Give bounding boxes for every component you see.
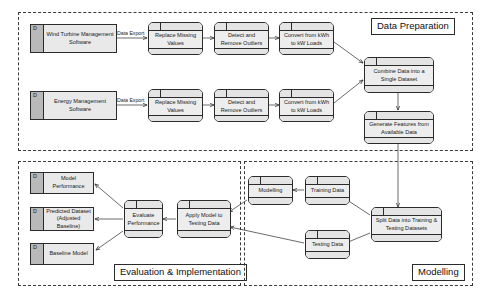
process-convert-kwh-kw-2[interactable]: Convert from kWh to kW Loads [279, 89, 334, 122]
process-label: Testing Data [306, 239, 349, 251]
store-marker-icon: D [31, 244, 44, 264]
store-marker-icon: D [31, 173, 44, 193]
process-label: Detect and Remove Outliers [215, 98, 268, 115]
store-wind-turbine-management-software[interactable]: D Wind Turbine Management Software [30, 24, 117, 53]
process-label: Evaluate Performance [125, 209, 162, 230]
process-header-band [280, 90, 333, 98]
process-label: Training Data [306, 185, 349, 197]
process-label: Modelling [249, 185, 292, 197]
process-label: Detect and Remove Outliers [215, 31, 268, 48]
process-label: Replace Missing Values [149, 98, 202, 115]
process-footer-band [306, 197, 349, 204]
process-header-band [249, 177, 292, 185]
process-header-band [280, 23, 333, 31]
process-header-band [178, 201, 230, 209]
process-header-band [365, 58, 433, 66]
process-footer-band [280, 115, 333, 122]
store-marker-icon: D [31, 208, 44, 230]
process-generate-features[interactable]: Generate Features from Available Data [364, 111, 434, 144]
process-header-band [306, 177, 349, 185]
group-label-data-preparation: Data Preparation [371, 18, 455, 35]
process-combine-data-single-dataset[interactable]: Combine Data into a Single Dataset [364, 57, 434, 93]
process-training-data[interactable]: Training Data [305, 176, 350, 205]
store-marker-icon: D [31, 92, 44, 119]
process-label: Apply Model to Testing Data [178, 209, 230, 230]
process-footer-band [215, 115, 268, 122]
store-label: Energy Management Software [44, 92, 116, 119]
process-label: Convert from kWh to kW Loads [280, 98, 333, 115]
group-label-modelling: Modelling [412, 264, 465, 281]
process-footer-band [149, 115, 202, 122]
process-label: Combine Data into a Single Dataset [365, 66, 433, 85]
process-header-band [149, 90, 202, 98]
process-apply-model-testing-data[interactable]: Apply Model to Testing Data [177, 200, 231, 238]
store-baseline-model[interactable]: D Baseline Model [30, 243, 94, 265]
process-label: Replace Missing Values [149, 31, 202, 48]
store-label: Wind Turbine Management Software [44, 25, 116, 52]
process-detect-remove-outliers-2[interactable]: Detect and Remove Outliers [214, 89, 269, 122]
process-footer-band [306, 251, 349, 258]
process-header-band [306, 231, 349, 239]
store-energy-management-software[interactable]: D Energy Management Software [30, 91, 117, 120]
process-footer-band [372, 234, 441, 241]
diagram-canvas: Data Preparation Evaluation & Implementa… [0, 0, 481, 299]
process-footer-band [149, 48, 202, 55]
edge-label-data-export-2: Data Export [117, 98, 144, 103]
process-header-band [215, 23, 268, 31]
process-header-band [125, 201, 162, 209]
process-split-data[interactable]: Split Data into Training & Testing Datas… [371, 207, 442, 242]
process-label: Split Data into Training & Testing Datas… [372, 216, 441, 234]
edge-label-data-export-1: Data Export [117, 31, 144, 36]
process-header-band [365, 112, 433, 120]
process-detect-remove-outliers-1[interactable]: Detect and Remove Outliers [214, 22, 269, 55]
store-predicted-dataset[interactable]: D Predicted Dataset (Adjusted Baseline) [30, 207, 94, 231]
store-label: Model Performance [44, 173, 93, 193]
process-modelling[interactable]: Modelling [248, 176, 293, 205]
process-footer-band [215, 48, 268, 55]
group-label-evaluation-implementation: Evaluation & Implementation [114, 264, 247, 281]
process-label: Convert from kWh to kW Loads [280, 31, 333, 48]
process-footer-band [365, 137, 433, 144]
process-header-band [372, 208, 441, 216]
store-marker-icon: D [31, 25, 44, 52]
store-label: Baseline Model [44, 244, 93, 264]
process-convert-kwh-kw-1[interactable]: Convert from kWh to kW Loads [279, 22, 334, 55]
process-testing-data[interactable]: Testing Data [305, 230, 350, 259]
process-footer-band [365, 85, 433, 92]
process-footer-band [249, 197, 292, 204]
process-replace-missing-values-1[interactable]: Replace Missing Values [148, 22, 203, 55]
store-model-performance[interactable]: D Model Performance [30, 172, 94, 194]
process-footer-band [280, 48, 333, 55]
process-label: Generate Features from Available Data [365, 120, 433, 137]
store-label: Predicted Dataset (Adjusted Baseline) [44, 208, 93, 230]
process-evaluate-performance[interactable]: Evaluate Performance [124, 200, 163, 238]
process-header-band [215, 90, 268, 98]
process-footer-band [125, 230, 162, 237]
process-header-band [149, 23, 202, 31]
process-footer-band [178, 230, 230, 237]
process-replace-missing-values-2[interactable]: Replace Missing Values [148, 89, 203, 122]
